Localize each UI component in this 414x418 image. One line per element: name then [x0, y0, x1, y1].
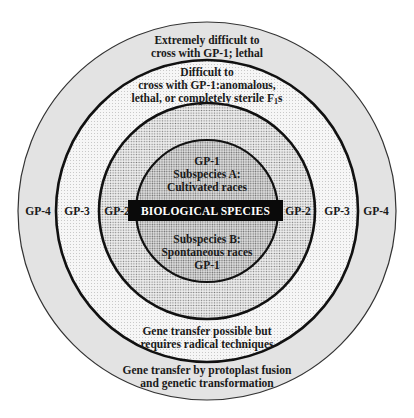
right-gp4-label: GP-4	[360, 205, 392, 218]
right-gp3-label: GP-3	[321, 205, 353, 218]
gp1-top-label: GP-1 Subspecies A: Cultivated races	[147, 155, 267, 194]
gp4-bottom-label: Gene transfer by protoplast fusion and g…	[97, 364, 317, 390]
gp4-top-label: Extremely difficult to cross with GP-1; …	[107, 34, 307, 60]
left-gp4-label: GP-4	[22, 205, 54, 218]
gp3-top-label: Difficult to cross with GP-1:anomalous, …	[97, 66, 317, 108]
left-gp3-label: GP-3	[61, 205, 93, 218]
biological-species-banner: BIOLOGICAL SPECIES	[128, 200, 283, 221]
right-gp2-label: GP-2	[282, 205, 314, 218]
left-gp2-label: GP-2	[101, 205, 133, 218]
gp3-top-line3: lethal, or completely sterile F1s	[97, 92, 317, 108]
gp1-bottom-label: Subspecies B: Spontaneous races GP-1	[147, 233, 267, 272]
gp3-bottom-label: Gene transfer possible but requires radi…	[107, 325, 307, 351]
